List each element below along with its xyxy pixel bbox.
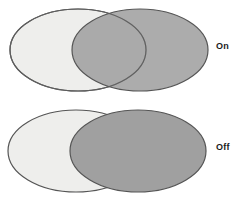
transparency-comparison-figure: On Off (0, 0, 240, 201)
dark-ellipse (70, 110, 206, 192)
venn-diagram-transparency-on (0, 0, 215, 100)
dark-ellipse (72, 9, 208, 91)
transparency-on-row: On (0, 0, 240, 100)
transparency-off-row: Off (0, 101, 240, 201)
transparency-on-label: On (216, 41, 240, 52)
transparency-off-label: Off (216, 142, 240, 153)
venn-diagram-transparency-off (0, 101, 215, 201)
